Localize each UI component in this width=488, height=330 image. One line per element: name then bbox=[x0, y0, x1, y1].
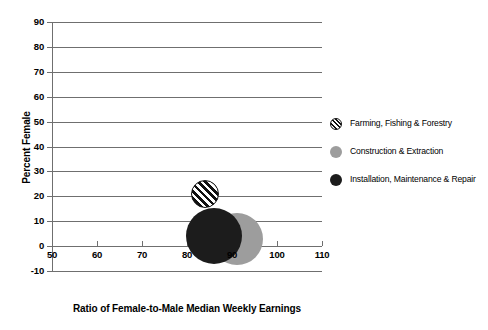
x-tick-label: 50 bbox=[32, 249, 72, 260]
legend-item-3[interactable]: Installation, Maintenance & Repair bbox=[330, 174, 488, 186]
y-tick bbox=[47, 271, 52, 272]
gridline bbox=[52, 22, 322, 23]
gridline bbox=[52, 122, 322, 123]
legend: Farming, Fishing & ForestryConstruction … bbox=[330, 118, 488, 202]
legend-item-1[interactable]: Farming, Fishing & Forestry bbox=[330, 118, 488, 130]
x-tick-label: 90 bbox=[212, 249, 252, 260]
y-tick bbox=[47, 122, 52, 123]
y-tick bbox=[47, 147, 52, 148]
bubble-chart: -100102030405060708090 5060708090100110 … bbox=[0, 0, 488, 330]
x-axis-title: Ratio of Female-to-Male Median Weekly Ea… bbox=[52, 303, 322, 314]
gridline bbox=[52, 271, 322, 272]
gridline bbox=[52, 72, 322, 73]
x-tick-label: 100 bbox=[257, 249, 297, 260]
gray-circle-icon bbox=[330, 146, 342, 158]
x-tick-label: 60 bbox=[77, 249, 117, 260]
y-tick bbox=[47, 72, 52, 73]
y-tick-label: 90 bbox=[4, 16, 44, 27]
x-tick bbox=[52, 241, 53, 246]
y-tick bbox=[47, 22, 52, 23]
gridline bbox=[52, 97, 322, 98]
x-tick bbox=[97, 241, 98, 246]
legend-item-label: Installation, Maintenance & Repair bbox=[350, 174, 476, 186]
y-tick bbox=[47, 246, 52, 247]
y-tick bbox=[47, 171, 52, 172]
plot-area bbox=[52, 22, 322, 271]
legend-item-2[interactable]: Construction & Extraction bbox=[330, 146, 488, 158]
data-point-bubble bbox=[191, 180, 219, 208]
black-circle-icon bbox=[330, 174, 342, 186]
legend-item-label: Construction & Extraction bbox=[350, 146, 443, 158]
y-tick-label: 80 bbox=[4, 41, 44, 52]
x-tick bbox=[322, 241, 323, 246]
x-tick-label: 80 bbox=[167, 249, 207, 260]
gridline bbox=[52, 221, 322, 222]
y-tick-label: -10 bbox=[4, 265, 44, 276]
x-tick bbox=[277, 241, 278, 246]
gridline bbox=[52, 196, 322, 197]
gridline bbox=[52, 147, 322, 148]
y-axis-title: Percent Female bbox=[21, 78, 32, 218]
y-tick bbox=[47, 47, 52, 48]
x-tick-label: 110 bbox=[302, 249, 342, 260]
legend-item-label: Farming, Fishing & Forestry bbox=[350, 118, 452, 130]
x-tick bbox=[142, 241, 143, 246]
gridline bbox=[52, 171, 322, 172]
x-tick-label: 70 bbox=[122, 249, 162, 260]
y-tick bbox=[47, 97, 52, 98]
y-tick-label: 70 bbox=[4, 66, 44, 77]
y-tick bbox=[47, 196, 52, 197]
striped-circle-icon bbox=[330, 118, 342, 130]
y-tick bbox=[47, 221, 52, 222]
gridline bbox=[52, 47, 322, 48]
